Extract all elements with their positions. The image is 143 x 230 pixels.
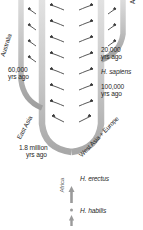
- label-1-8-million-years-unit: yrs ago: [26, 151, 47, 159]
- label-100000-years-unit: yrs ago: [101, 90, 122, 98]
- ancestry-dot: [70, 209, 73, 212]
- arrow-group-left-outer: [28, 7, 36, 62]
- ancestry-arrows: [69, 186, 75, 226]
- arrow-group-right-outer: [108, 7, 116, 46]
- arrow-erectus-head: [69, 186, 75, 192]
- label-africa: Africa: [59, 178, 67, 193]
- label-20000-years-unit: yrs ago: [101, 53, 122, 61]
- arrow-group-right-inner: [79, 3, 93, 122]
- label-america: America: [129, 0, 137, 4]
- arrow-habilis-head: [69, 215, 74, 220]
- migration-tree-figure: America Australia East Asia West Asia + …: [0, 0, 143, 230]
- tree-graphic: [0, 0, 143, 230]
- label-h-sapiens: H. sapiens: [101, 68, 131, 76]
- label-60000-years-unit: yrs ago: [8, 73, 29, 81]
- label-h-habilis: H. habilis: [80, 207, 106, 215]
- arrow-group-left-inner: [50, 3, 64, 122]
- label-h-erectus: H. erectus: [80, 175, 109, 183]
